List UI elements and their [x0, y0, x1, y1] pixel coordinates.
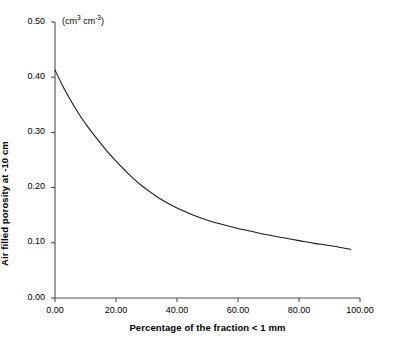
- y-axis-tick-label: 0.50: [5, 16, 45, 26]
- x-axis-tick-label: 20.00: [91, 305, 141, 315]
- chart-container: Air filled porosity at -10 cm (cm3 cm-3)…: [0, 0, 410, 355]
- plot-area: [0, 0, 410, 355]
- y-axis-tick-label: 0.00: [5, 292, 45, 302]
- x-axis-tick-label: 0.00: [30, 305, 80, 315]
- x-axis-ticks: [55, 298, 360, 302]
- x-axis-title: Percentage of the fraction < 1 mm: [55, 322, 360, 333]
- axis-lines: [55, 22, 360, 298]
- y-axis-tick-label: 0.30: [5, 126, 45, 136]
- y-axis-tick-label: 0.10: [5, 236, 45, 246]
- y-axis-ticks: [51, 22, 55, 298]
- x-axis-tick-label: 40.00: [152, 305, 202, 315]
- x-axis-tick-label: 60.00: [213, 305, 263, 315]
- x-axis-tick-label: 80.00: [274, 305, 324, 315]
- x-axis-tick-label: 100.00: [335, 305, 385, 315]
- y-axis-tick-label: 0.20: [5, 181, 45, 191]
- y-axis-tick-label: 0.40: [5, 71, 45, 81]
- data-series-line: [55, 70, 351, 249]
